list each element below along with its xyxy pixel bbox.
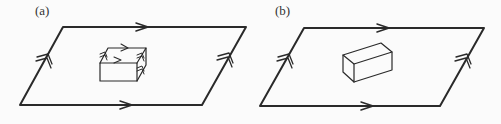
diagram-stage: (a) (b) (0, 0, 501, 124)
surface-b-parallelogram (260, 28, 484, 106)
diagram-svg (0, 0, 501, 124)
panel-a (20, 23, 246, 109)
box-a (100, 44, 146, 81)
surface-a-parallelogram (20, 27, 246, 105)
panel-b (260, 24, 484, 110)
box-b (343, 43, 392, 82)
